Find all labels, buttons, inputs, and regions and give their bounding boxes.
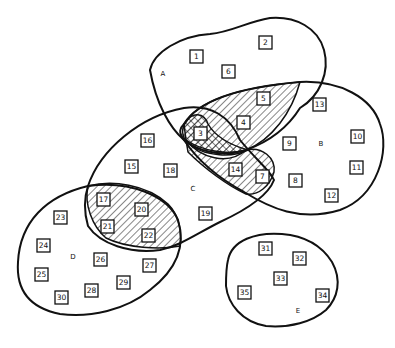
element-box: 35 — [238, 286, 251, 299]
element-box: 11 — [350, 161, 363, 174]
element-box: 10 — [351, 130, 364, 143]
svg-text:13: 13 — [315, 100, 325, 109]
set-label-e: E — [296, 307, 300, 315]
element-box: 32 — [293, 252, 306, 265]
set-label-b: B — [319, 140, 324, 148]
element-box: 29 — [117, 276, 130, 289]
svg-text:12: 12 — [327, 191, 337, 200]
svg-text:25: 25 — [37, 270, 47, 279]
element-box: 16 — [141, 134, 154, 147]
svg-text:17: 17 — [99, 195, 109, 204]
svg-text:5: 5 — [261, 94, 266, 103]
element-box: 20 — [135, 203, 148, 216]
svg-text:2: 2 — [263, 38, 268, 47]
element-box: 23 — [54, 211, 67, 224]
svg-text:33: 33 — [276, 274, 286, 283]
svg-text:24: 24 — [39, 241, 49, 250]
svg-text:30: 30 — [57, 293, 67, 302]
element-box: 5 — [257, 92, 270, 105]
svg-text:34: 34 — [318, 291, 328, 300]
svg-text:27: 27 — [145, 261, 155, 270]
element-box: 6 — [222, 65, 235, 78]
element-box: 31 — [259, 242, 272, 255]
svg-text:20: 20 — [137, 205, 147, 214]
element-box: 25 — [35, 268, 48, 281]
svg-text:26: 26 — [96, 255, 106, 264]
set-label-a: A — [161, 70, 166, 78]
element-box: 30 — [55, 291, 68, 304]
element-box: 18 — [164, 164, 177, 177]
svg-text:31: 31 — [261, 244, 271, 253]
element-box: 33 — [274, 272, 287, 285]
element-box: 26 — [94, 253, 107, 266]
svg-text:29: 29 — [119, 278, 129, 287]
svg-text:28: 28 — [87, 286, 97, 295]
svg-text:6: 6 — [226, 67, 231, 76]
element-box: 9 — [283, 137, 296, 150]
set-diagram: A B C D E 1 2 3 4 5 6 7 8 9 10 11 12 13 … — [0, 0, 395, 348]
element-box: 8 — [289, 174, 302, 187]
svg-text:10: 10 — [353, 132, 363, 141]
svg-text:14: 14 — [231, 165, 241, 174]
element-box: 22 — [142, 229, 155, 242]
element-box: 7 — [256, 170, 269, 183]
element-box: 28 — [85, 284, 98, 297]
set-label-d: D — [70, 253, 75, 261]
element-box: 34 — [316, 289, 329, 302]
element-box: 1 — [190, 50, 203, 63]
svg-text:7: 7 — [260, 172, 265, 181]
element-box: 21 — [101, 220, 114, 233]
svg-text:16: 16 — [143, 136, 153, 145]
svg-text:8: 8 — [293, 176, 298, 185]
svg-text:22: 22 — [144, 231, 154, 240]
svg-text:3: 3 — [198, 129, 203, 138]
svg-text:32: 32 — [295, 254, 305, 263]
element-box: 13 — [313, 98, 326, 111]
svg-text:35: 35 — [240, 288, 250, 297]
set-label-c: C — [191, 185, 196, 193]
svg-text:18: 18 — [166, 166, 176, 175]
element-box: 17 — [97, 193, 110, 206]
element-box: 2 — [259, 36, 272, 49]
svg-text:15: 15 — [127, 162, 137, 171]
svg-text:21: 21 — [103, 222, 113, 231]
element-box: 24 — [37, 239, 50, 252]
svg-text:19: 19 — [201, 209, 211, 218]
svg-text:1: 1 — [194, 52, 199, 61]
svg-text:11: 11 — [352, 163, 362, 172]
svg-text:4: 4 — [241, 118, 246, 127]
element-box: 15 — [125, 160, 138, 173]
element-box: 3 — [194, 127, 207, 140]
element-box: 14 — [229, 163, 242, 176]
element-box: 27 — [143, 259, 156, 272]
element-box: 12 — [325, 189, 338, 202]
svg-text:9: 9 — [287, 139, 292, 148]
element-box: 4 — [237, 116, 250, 129]
element-box: 19 — [199, 207, 212, 220]
svg-text:23: 23 — [56, 213, 66, 222]
